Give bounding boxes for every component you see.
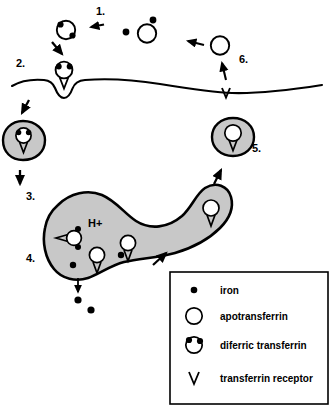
arrow-step-6 bbox=[222, 63, 226, 80]
arrow-recycling-upper bbox=[214, 170, 221, 184]
iron-dot bbox=[150, 17, 157, 24]
iron-dot bbox=[75, 226, 81, 232]
iron-dot bbox=[186, 337, 192, 343]
legend-label-apotransferrin: apotransferrin bbox=[220, 311, 288, 322]
legend-label-transferrin-receptor: transferrin receptor bbox=[220, 373, 313, 384]
step-label-5: 5. bbox=[252, 142, 261, 154]
iron-dot bbox=[70, 262, 76, 268]
iron-dot bbox=[75, 244, 81, 250]
figure-canvas: H+ bbox=[0, 0, 334, 409]
iron-dot bbox=[56, 64, 62, 70]
legend-label-diferric-transferrin: diferric transferrin bbox=[220, 340, 307, 351]
iron-dot bbox=[26, 130, 31, 135]
arrow-apotransferrin-release bbox=[188, 41, 204, 45]
iron-dot-symbol bbox=[191, 287, 198, 294]
step-label-2: 2. bbox=[16, 57, 25, 69]
diferric-transferrin-bound-receptor bbox=[56, 62, 73, 89]
proton-label: H+ bbox=[88, 217, 102, 229]
recycling-vesicle-with-apotransferrin bbox=[212, 118, 254, 156]
cytosolic-iron-pool bbox=[74, 296, 94, 313]
iron-dot bbox=[69, 32, 75, 38]
iron-dot bbox=[67, 64, 73, 70]
step-label-6: 6. bbox=[239, 53, 248, 65]
iron-dot bbox=[123, 29, 130, 36]
iron-dot bbox=[57, 21, 63, 27]
arrow-binding bbox=[52, 42, 62, 54]
endocytic-vesicle-with-diferric-transferrin bbox=[3, 121, 45, 160]
arrow-step-1 bbox=[91, 25, 104, 28]
legend: iron apotransferrin diferric transferrin… bbox=[170, 272, 328, 404]
step-label-3: 3. bbox=[26, 190, 35, 202]
diferric-transferrin-extracellular bbox=[57, 21, 76, 39]
iron-dot bbox=[74, 296, 81, 303]
step-label-1: 1. bbox=[96, 5, 105, 17]
acidified-endosome: H+ bbox=[44, 185, 232, 280]
arrow-internalization bbox=[22, 100, 29, 113]
transferrin-cycle-diagram: H+ bbox=[0, 0, 334, 409]
apotransferrin-circle-symbol bbox=[186, 308, 202, 324]
iron-dot bbox=[197, 338, 203, 344]
iron-dot bbox=[87, 306, 94, 313]
apotransferrin-extracellular-right bbox=[211, 36, 229, 54]
plasma-membrane bbox=[12, 79, 322, 98]
iron-dot bbox=[16, 130, 21, 135]
legend-label-iron: iron bbox=[220, 285, 239, 296]
apotransferrin-extracellular-center bbox=[138, 24, 156, 42]
iron-dot bbox=[118, 252, 124, 258]
step-label-4: 4. bbox=[26, 252, 35, 264]
